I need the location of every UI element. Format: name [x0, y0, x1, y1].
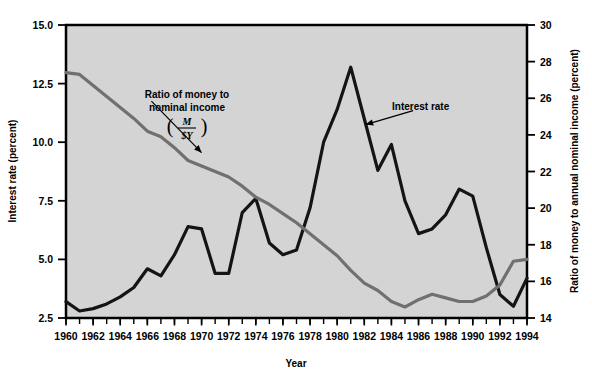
y-axis-left-tick-label: 15.0: [33, 19, 54, 31]
y-axis-right-tick-label: 14: [540, 312, 552, 324]
x-axis-tick-label: 1972: [217, 330, 241, 342]
x-axis-title: Year: [285, 358, 306, 369]
y-axis-right-tick-label: 30: [540, 19, 552, 31]
y-axis-right-title: Ratio of money to annual nominal income …: [569, 49, 580, 293]
plot-area-background: [66, 25, 527, 318]
interest-rate-annotation-label: Interest rate: [392, 101, 450, 112]
money-ratio-annotation-denominator: $Y: [180, 130, 193, 141]
money-ratio-interest-rate-chart: 1960196219641966196819701972197419761978…: [0, 0, 592, 379]
money-ratio-annotation-line1: Ratio of money to: [145, 89, 229, 100]
y-axis-left-tick-label: 12.5: [33, 78, 54, 90]
y-axis-left-tick-label: 10.0: [33, 136, 54, 148]
y-axis-left-tick-label: 2.5: [38, 312, 53, 324]
x-axis-tick-label: 1984: [380, 330, 404, 342]
x-axis-tick-label: 1986: [407, 330, 431, 342]
y-axis-left-title: Interest rate (percent): [7, 120, 18, 223]
y-axis-right-tick-label: 20: [540, 202, 552, 214]
x-axis-tick-label: 1994: [515, 330, 539, 342]
x-axis-tick-label: 1990: [461, 330, 485, 342]
x-axis-tick-label: 1960: [54, 330, 78, 342]
y-axis-left-tick-label: 7.5: [38, 195, 53, 207]
y-axis-right-tick-label: 18: [540, 239, 552, 251]
x-axis-tick-label: 1966: [136, 330, 160, 342]
x-axis-tick-label: 1968: [163, 330, 187, 342]
x-axis-tick-label: 1980: [325, 330, 349, 342]
money-ratio-annotation-paren-right: ): [201, 115, 208, 138]
x-axis-tick-label: 1962: [81, 330, 105, 342]
y-axis-left-tick-label: 5.0: [38, 253, 53, 265]
x-axis-tick-label: 1964: [109, 330, 133, 342]
x-axis-tick-label: 1978: [298, 330, 322, 342]
y-axis-right-tick-labels: 141618202224262830: [540, 19, 552, 324]
x-axis-tick-label: 1974: [244, 330, 268, 342]
y-axis-right-tick-label: 28: [540, 56, 552, 68]
x-axis-tick-label: 1982: [353, 330, 377, 342]
y-axis-right-tick-label: 24: [540, 129, 552, 141]
x-axis-tick-label: 1992: [488, 330, 512, 342]
x-axis-tick-label: 1970: [190, 330, 214, 342]
money-ratio-annotation-numerator: M: [182, 116, 193, 127]
money-ratio-annotation-line2: nominal income: [149, 102, 226, 113]
x-axis-tick-label: 1976: [271, 330, 295, 342]
y-axis-right-tick-label: 26: [540, 92, 552, 104]
y-axis-right-tick-label: 16: [540, 275, 552, 287]
x-axis-tick-label: 1988: [434, 330, 458, 342]
y-axis-right-tick-label: 22: [540, 166, 552, 178]
